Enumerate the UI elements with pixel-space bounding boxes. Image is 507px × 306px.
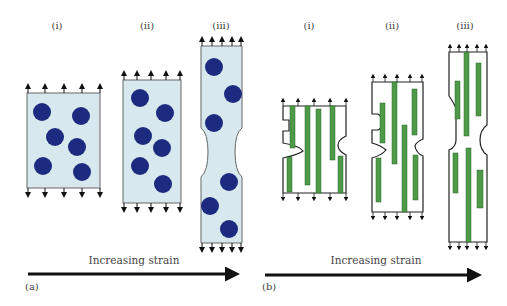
tension-arrows-top: [450, 46, 486, 52]
tension-arrows-top: [28, 86, 100, 93]
panel-b-stage-ii: [372, 76, 423, 218]
panel-b: (i) (ii) (iii): [262, 20, 487, 292]
tension-arrows-top: [124, 73, 180, 80]
panel-a: (i) (ii) (iii): [25, 20, 242, 292]
panel-a-label: (a): [25, 281, 39, 292]
panel-a-stage-ii: [123, 73, 181, 210]
panel-b-arrow-caption: Increasing strain: [331, 254, 422, 266]
tension-arrows-top: [373, 76, 422, 82]
panel-b-stage-iii-label: (iii): [456, 20, 473, 31]
figure: (i) (ii) (iii): [0, 0, 507, 306]
tension-arrows-bottom: [202, 243, 241, 250]
panel-a-stage-ii-label: (ii): [140, 20, 154, 31]
tension-arrows-bottom: [28, 188, 100, 195]
tension-arrows-bottom: [124, 203, 180, 210]
tension-arrows-bottom: [373, 212, 422, 218]
panel-a-stage-iii-label: (iii): [212, 20, 229, 31]
panel-b-label: (b): [262, 281, 276, 292]
strain-diagram: (i) (ii) (iii): [0, 0, 507, 306]
tension-arrows-bottom: [450, 242, 486, 248]
panel-b-stage-iii: [449, 46, 487, 248]
panel-a-stage-iii: [201, 39, 242, 250]
panel-a-stage-i-label: (i): [51, 20, 62, 31]
tension-arrows-top: [283, 100, 346, 106]
panel-a-arrow-caption: Increasing strain: [89, 254, 180, 266]
tension-arrows-bottom: [283, 193, 346, 199]
tension-arrows-top: [202, 39, 241, 46]
panel-b-stage-i-label: (i): [303, 20, 314, 31]
panel-b-stage-i: [283, 100, 346, 199]
panel-b-stage-ii-label: (ii): [385, 20, 399, 31]
panel-a-stage-i: [27, 86, 100, 195]
